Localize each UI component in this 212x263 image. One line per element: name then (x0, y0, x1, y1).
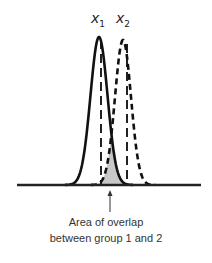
caption-line2: between group 1 and 2 (0, 230, 212, 246)
arrow-head-icon (108, 190, 113, 196)
overlap-caption: Area of overlap between group 1 and 2 (0, 214, 212, 246)
caption-line1: Area of overlap (0, 214, 212, 230)
curve-group1-solid (65, 37, 133, 185)
label-x2: x2 (116, 10, 130, 29)
label-x1: x1 (91, 10, 105, 29)
